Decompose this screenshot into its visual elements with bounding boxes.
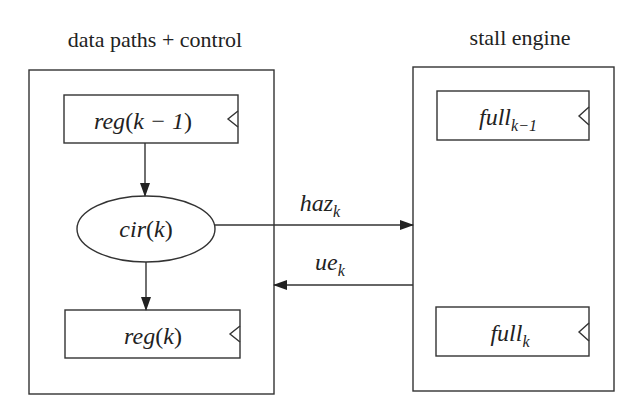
register-label: fullk−1 (479, 104, 537, 134)
circuit-cir-k: cir(k) (77, 196, 215, 262)
clock-input-icon (230, 326, 240, 342)
signal-haz-k: hazk (215, 190, 413, 225)
left-module-title: data paths + control (68, 27, 242, 52)
right-module-title: stall engine (470, 25, 571, 50)
register-reg-k-minus-1: reg(k − 1) (64, 95, 238, 143)
left-module: data paths + control reg(k − 1) cir(k) (29, 27, 274, 394)
pipeline-stall-diagram: data paths + control reg(k − 1) cir(k) (0, 0, 638, 411)
signal-label: hazk (300, 190, 341, 220)
register-label: reg(k − 1) (94, 108, 192, 134)
right-module: stall engine fullk−1 fullk (413, 25, 614, 391)
register-full-k-minus-1: fullk−1 (437, 91, 589, 140)
register-full-k: fullk (436, 307, 589, 356)
signal-label: uek (315, 249, 346, 279)
register-reg-k: reg(k) (65, 310, 240, 358)
circuit-label: cir(k) (119, 216, 172, 242)
signal-ue-k: uek (274, 249, 413, 285)
clock-input-icon (579, 323, 589, 341)
clock-input-icon (579, 107, 589, 125)
register-label: reg(k) (124, 323, 182, 349)
register-label: fullk (490, 320, 530, 350)
clock-input-icon (228, 111, 238, 127)
